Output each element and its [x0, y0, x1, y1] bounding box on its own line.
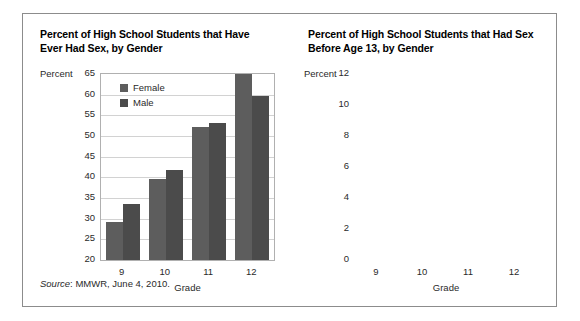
y-tick-label: 40 [69, 170, 95, 181]
legend-row-male: Male [120, 95, 165, 110]
bar-male-grade-9 [123, 204, 140, 260]
y-tick-label: 0 [329, 253, 349, 264]
y-tick-label: 4 [329, 191, 349, 202]
source-note: Source: MMWR, June 4, 2010. [40, 278, 170, 289]
y-tick-label: 2 [329, 222, 349, 233]
y-tick-label: 10 [329, 98, 349, 109]
y-tick-label: 20 [69, 253, 95, 264]
y-tick-label: 45 [69, 150, 95, 161]
legend-label-female: Female [133, 82, 165, 93]
legend-swatch-male-icon [120, 99, 128, 107]
legend-swatch-female-icon [120, 84, 128, 92]
y-tick-label: 12 [329, 67, 349, 78]
x-axis-title-right: Grade [353, 282, 539, 293]
chart-title-left: Percent of High School Students that Hav… [40, 27, 274, 55]
legend-label-male: Male [133, 97, 154, 108]
bar-female-grade-11 [192, 127, 209, 261]
x-tick-label-grade-11: 11 [193, 266, 223, 277]
y-axis-label-left: Percent [40, 68, 73, 79]
bar-female-grade-12 [235, 74, 252, 260]
bar-female-grade-9 [106, 222, 123, 260]
x-tick-label-grade-9: 9 [361, 266, 391, 277]
bar-male-grade-12 [252, 96, 269, 260]
source-word: Source [40, 278, 70, 289]
bar-male-grade-10 [166, 170, 183, 260]
y-tick-label: 35 [69, 191, 95, 202]
x-tick-label-grade-10: 10 [150, 266, 180, 277]
source-text: : MMWR, June 4, 2010. [70, 278, 170, 289]
legend-left: Female Male [120, 80, 165, 110]
figure-frame: Percent of High School Students that Hav… [22, 13, 557, 307]
y-tick-label: 55 [69, 108, 95, 119]
y-tick-label: 8 [329, 129, 349, 140]
legend-row-female: Female [120, 80, 165, 95]
y-tick-label: 6 [329, 160, 349, 171]
y-tick-label: 50 [69, 129, 95, 140]
bar-male-grade-11 [209, 123, 226, 260]
y-tick-label: 30 [69, 212, 95, 223]
x-tick-label-grade-12: 12 [236, 266, 266, 277]
chart-panel-ever-had-sex: Percent of High School Students that Hav… [23, 14, 291, 306]
x-tick-label-grade-9: 9 [107, 266, 137, 277]
x-tick-label-grade-12: 12 [499, 266, 529, 277]
x-tick-label-grade-11: 11 [453, 266, 483, 277]
chart-title-right: Percent of High School Students that Had… [308, 27, 542, 55]
y-tick-label: 65 [69, 67, 95, 78]
y-tick-label: 25 [69, 232, 95, 243]
chart-panel-sex-before-13: Percent of High School Students that Had… [291, 14, 558, 306]
bar-female-grade-10 [149, 179, 166, 260]
x-tick-label-grade-10: 10 [407, 266, 437, 277]
y-tick-label: 60 [69, 88, 95, 99]
